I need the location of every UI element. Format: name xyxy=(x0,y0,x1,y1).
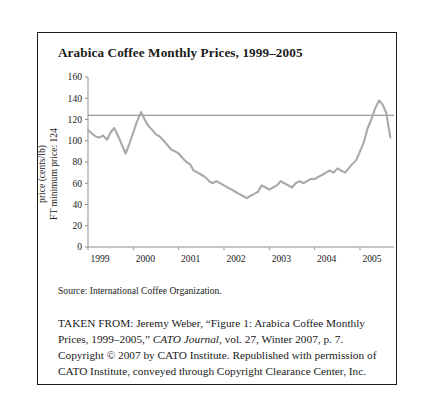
y-tick-label: 140 xyxy=(68,93,83,104)
y-tick-label: 0 xyxy=(77,241,82,252)
x-tick-label: 2002 xyxy=(226,253,245,264)
chart-plot-area: price (cents/lb) FT minimum price: 124 0… xyxy=(38,69,398,279)
y-axis-label-ft-minimum-price: FT minimum price: 124 xyxy=(48,69,59,279)
x-tick-label: 2001 xyxy=(181,253,200,264)
y-axis-tick-labels: 020406080100120140160 xyxy=(68,71,88,252)
x-tick-label: 2005 xyxy=(362,253,381,264)
figure-container: Arabica Coffee Monthly Prices, 1999–2005… xyxy=(37,32,397,385)
y-tick-label: 120 xyxy=(68,114,83,125)
caption-block: TAKEN FROM: Jeremy Weber, “Figure 1: Ara… xyxy=(58,315,388,379)
caption-journal-name: CATO Journal xyxy=(153,333,219,345)
x-tick-label: 2004 xyxy=(317,253,336,264)
y-tick-label: 40 xyxy=(72,199,82,210)
y-tick-label: 60 xyxy=(72,178,82,189)
x-tick-label: 2000 xyxy=(136,253,155,264)
x-tick-label: 1999 xyxy=(90,253,109,264)
x-axis-tick-labels: 1999200020012002200320042005 xyxy=(88,247,382,264)
price-line-chart: 020406080100120140160 199920002001200220… xyxy=(38,69,398,279)
x-tick-label: 2003 xyxy=(272,253,291,264)
y-tick-label: 160 xyxy=(68,71,83,82)
y-tick-label: 20 xyxy=(72,220,82,231)
y-axis-label-group: price (cents/lb) FT minimum price: 124 xyxy=(34,0,74,69)
figure-title: Arabica Coffee Monthly Prices, 1999–2005 xyxy=(58,45,303,61)
y-axis-label-price: price (cents/lb) xyxy=(36,69,47,279)
source-note: Source: International Coffee Organizatio… xyxy=(58,285,222,296)
y-tick-label: 100 xyxy=(68,135,83,146)
y-tick-label: 80 xyxy=(72,156,82,167)
